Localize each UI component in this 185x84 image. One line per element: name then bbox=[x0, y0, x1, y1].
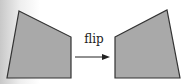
flipped-quadrilateral bbox=[115, 10, 180, 78]
original-quadrilateral bbox=[7, 11, 71, 78]
arrow-right-icon bbox=[75, 54, 110, 60]
flip-diagram: flip bbox=[0, 0, 185, 84]
flip-label: flip bbox=[80, 33, 108, 45]
